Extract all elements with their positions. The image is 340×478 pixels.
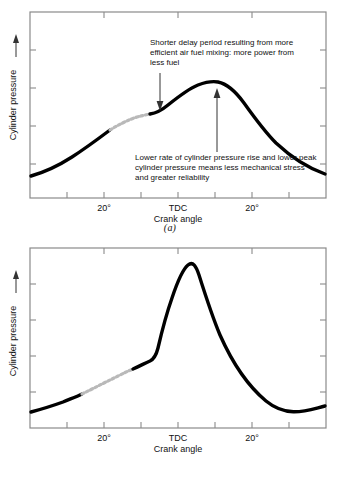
pressure-curve-b-dashed-segment	[82, 369, 133, 394]
up-arrow-icon	[214, 88, 221, 152]
x-tick-label-b-right: 20°	[245, 433, 259, 443]
top-axis-ticks-a	[104, 12, 252, 18]
y-axis-arrow-icon-b	[13, 270, 19, 293]
x-tick-label-a-right: 20°	[245, 203, 259, 213]
pressure-curve-a-left	[31, 130, 110, 176]
down-arrow-icon	[157, 73, 164, 111]
top-axis-ticks-b	[104, 248, 252, 254]
chart-panel-b: 20° TDC 20° Crank angle Cylinder pressur…	[0, 236, 340, 478]
panel-a-caption: (a)	[0, 222, 340, 233]
y-axis-label-b: Cylinder pressure	[8, 306, 18, 377]
pressure-curve-b-left	[31, 394, 82, 412]
pressure-curve-b-peak	[133, 264, 325, 412]
chart-panel-a: Shorter delay period resulting from more…	[0, 0, 340, 240]
annotation-upper-line-1: Shorter delay period resulting from more	[150, 38, 294, 47]
x-tick-label-a-tdc: TDC	[169, 203, 188, 213]
x-tick-label-b-tdc: TDC	[169, 433, 188, 443]
x-tick-label-a-left: 20°	[97, 203, 111, 213]
y-axis-label-a: Cylinder pressure	[8, 70, 18, 141]
chart-b-svg: 20° TDC 20° Crank angle Cylinder pressur…	[0, 236, 340, 478]
annotation-upper-line-3: less fuel	[150, 58, 180, 67]
annotation-lower-line-1: Lower rate of cylinder pressure rise and…	[135, 153, 317, 162]
annotation-upper-line-2: efficient air fuel mixing: more power fr…	[150, 48, 294, 57]
annotation-lower-line-3: and greater reliability	[135, 173, 209, 182]
x-tick-label-b-left: 20°	[97, 433, 111, 443]
y-axis-ticks-b	[30, 284, 326, 392]
x-axis-ticks-a	[67, 192, 289, 198]
plot-frame-b	[30, 248, 326, 428]
y-axis-arrow-icon-a	[13, 34, 19, 57]
pressure-curve-a-dashed-segment	[110, 114, 150, 130]
annotation-lower-line-2: cylinder pressure means less mechanical …	[135, 163, 305, 172]
x-axis-ticks-b	[67, 422, 289, 428]
chart-a-svg: Shorter delay period resulting from more…	[0, 0, 340, 240]
figure-container: Shorter delay period resulting from more…	[0, 0, 340, 478]
x-axis-label-b: Crank angle	[154, 444, 203, 454]
